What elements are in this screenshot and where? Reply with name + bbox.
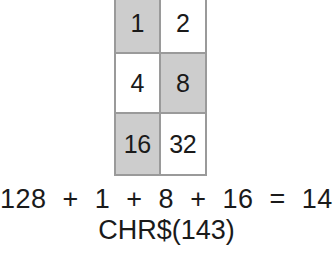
bit-cell-16: 16: [116, 114, 161, 174]
bit-cell-2: 2: [161, 0, 206, 54]
bit-cell-32: 32: [161, 114, 206, 174]
sum-equation: 128 + 1 + 8 + 16 = 143: [0, 184, 333, 215]
bit-cell-4: 4: [116, 54, 161, 114]
bit-cell-8: 8: [161, 54, 206, 114]
bit-value-grid: 1 2 4 8 16 32: [114, 0, 207, 176]
bit-cell-1: 1: [116, 0, 161, 54]
chr-expression: CHR$(143): [0, 215, 333, 246]
